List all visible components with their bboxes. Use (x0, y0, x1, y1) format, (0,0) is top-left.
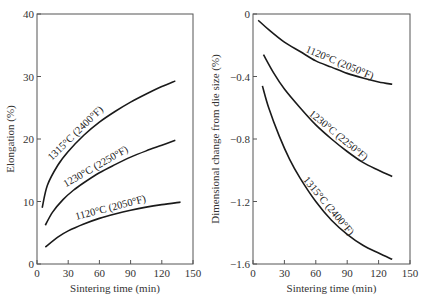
x-tick-label: 150 (402, 267, 419, 279)
series-label: 1230°C (2250°F) (61, 143, 131, 190)
x-tick-label: 0 (34, 267, 40, 279)
x-tick-label: 120 (370, 267, 387, 279)
series-line (262, 86, 392, 259)
y-tick-label: 20 (23, 133, 35, 145)
y-axis-label: Elongation (%) (4, 105, 17, 173)
x-tick-label: 30 (279, 267, 291, 279)
x-tick-label: 150 (185, 267, 202, 279)
x-tick-label: 120 (154, 267, 171, 279)
dimensional-change-chart: 03060901201500−0.4−0.8−1.2−1.6Sintering … (209, 8, 419, 295)
series-label: 1230°C (2250°F) (306, 108, 370, 164)
series-label: 1120°C (2050°F) (74, 193, 148, 223)
x-axis-label: Sintering time (min) (287, 282, 377, 295)
y-axis-label: Dimensional change from die size (%) (209, 54, 222, 224)
x-tick-label: 90 (125, 267, 137, 279)
y-tick-label: 30 (23, 71, 35, 83)
x-tick-label: 30 (63, 267, 75, 279)
y-tick-label: −1.2 (230, 196, 250, 208)
chart-figure: 0306090120150010203040Sintering time (mi… (0, 0, 422, 304)
x-tick-label: 60 (94, 267, 106, 279)
y-tick-label: 0 (29, 258, 35, 270)
y-tick-label: 40 (23, 8, 35, 20)
elongation-chart: 0306090120150010203040Sintering time (mi… (4, 8, 202, 295)
x-tick-label: 90 (342, 267, 354, 279)
series-label: 1315°C (2400°F) (300, 174, 356, 238)
y-tick-label: 10 (23, 196, 35, 208)
y-tick-label: 0 (245, 8, 251, 20)
x-axis-label: Sintering time (min) (70, 282, 160, 295)
series-label: 1120°C (2050°F) (304, 44, 376, 83)
y-tick-label: −0.4 (230, 71, 250, 83)
series-label: 1315°C (2400°F) (45, 103, 106, 163)
y-tick-label: −0.8 (230, 133, 250, 145)
x-tick-label: 0 (250, 267, 256, 279)
y-tick-label: −1.6 (230, 258, 250, 270)
x-tick-label: 60 (310, 267, 322, 279)
